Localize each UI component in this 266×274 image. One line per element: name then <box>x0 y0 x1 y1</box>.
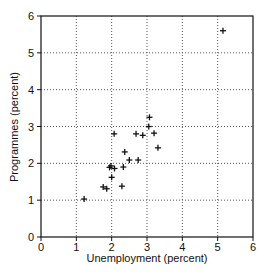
data-point-marker <box>119 183 125 189</box>
data-point-marker <box>122 149 128 155</box>
data-point-marker <box>81 196 87 202</box>
y-tick-label: 5 <box>28 47 34 59</box>
data-point-marker <box>155 145 161 151</box>
y-tick-label: 6 <box>28 10 34 22</box>
x-tick-label: 1 <box>73 241 79 253</box>
data-point-marker <box>109 174 115 180</box>
y-tick-label: 4 <box>28 84 34 96</box>
data-points <box>81 28 226 202</box>
data-point-marker <box>135 157 141 163</box>
x-axis-label: Unemployment (percent) <box>86 252 207 264</box>
x-tick-label: 0 <box>38 241 44 253</box>
y-tick-label: 1 <box>28 194 34 206</box>
data-point-marker <box>126 157 132 163</box>
data-point-marker <box>220 28 226 34</box>
y-tick-label: 2 <box>28 157 34 169</box>
data-point-marker <box>133 131 139 137</box>
y-axis-ticks: 0123456 <box>28 10 41 243</box>
x-tick-label: 6 <box>250 241 256 253</box>
data-point-marker <box>151 130 157 136</box>
y-tick-label: 0 <box>28 231 34 243</box>
scatter-chart: 0123456 0123456 Unemployment (percent) P… <box>0 0 266 274</box>
data-point-marker <box>120 164 126 170</box>
x-tick-label: 5 <box>215 241 221 253</box>
data-point-marker <box>140 132 146 138</box>
x-axis-ticks: 0123456 <box>38 237 256 253</box>
data-point-marker <box>111 131 117 137</box>
y-tick-label: 3 <box>28 121 34 133</box>
y-axis-label: Programmes (percent) <box>8 72 20 182</box>
